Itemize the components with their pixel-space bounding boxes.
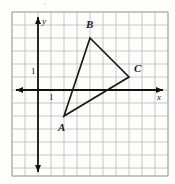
y-unit-tick-label: 1 xyxy=(31,67,36,76)
y-axis-arrow-up xyxy=(35,17,41,24)
x-unit-tick-label: 1 xyxy=(49,93,54,102)
vertex-label-c: C xyxy=(134,63,141,74)
coordinate-figure: ' xyxy=(0,0,175,184)
x-axis-label: x xyxy=(157,93,161,102)
y-axis-label: y xyxy=(42,17,46,26)
vertex-label-b: B xyxy=(86,19,93,30)
grid-lines xyxy=(12,12,168,176)
y-axis-arrow-down xyxy=(35,165,41,172)
vertex-label-a: A xyxy=(58,122,65,133)
x-axis-arrow-left xyxy=(16,87,23,93)
axis-y xyxy=(35,17,41,172)
